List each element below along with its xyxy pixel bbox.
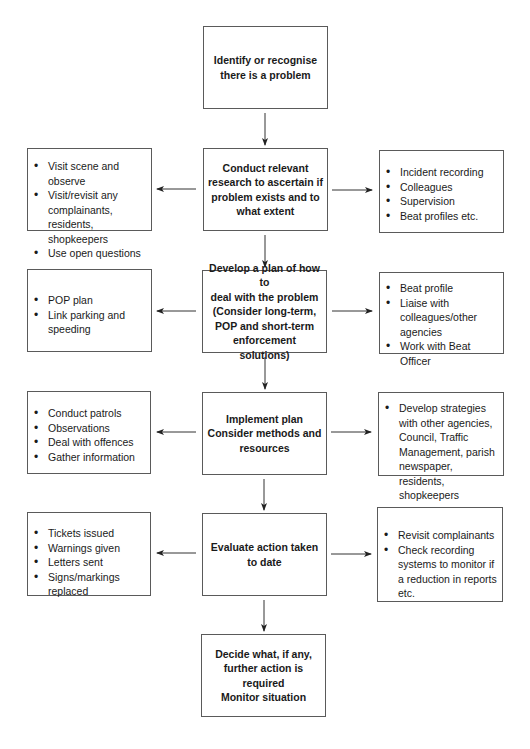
list-item: Visit scene and observe: [34, 159, 147, 188]
step4-center-box-evaluate: Evaluate action taken to date: [202, 513, 327, 596]
list-item: Supervision: [386, 194, 499, 209]
list-item: Beat profiles etc.: [386, 209, 499, 224]
list-item: Signs/markings replaced: [34, 570, 146, 599]
step3-center-box-implement: Implement plan Consider methods and reso…: [202, 392, 327, 475]
end-line: Monitor situation: [206, 690, 321, 705]
step-line: enforcement solutions): [207, 333, 322, 362]
list-item: Incident recording: [386, 165, 499, 180]
step-line: to date: [211, 555, 318, 570]
list-item: Gather information: [34, 450, 146, 465]
step-line: POP and short-term: [207, 319, 322, 334]
list-item: Colleagues: [386, 180, 499, 195]
step1-right-box: Incident recording Colleagues Supervisio…: [379, 150, 504, 233]
list-item: Observations: [34, 421, 146, 436]
step-line: research to ascertain if: [208, 175, 323, 190]
step-line: resources: [208, 441, 322, 456]
step2-left-box: POP plan Link parking and speeding: [27, 269, 152, 352]
step4-left-box: Tickets issued Warnings given Letters se…: [27, 512, 151, 596]
step3-left-box: Conduct patrols Observations Deal with o…: [27, 391, 151, 474]
end-line: Decide what, if any,: [206, 647, 321, 662]
list-item: Use open questions: [34, 246, 147, 261]
step1-center-box-research: Conduct relevant research to ascertain i…: [203, 148, 328, 231]
start-line: there is a problem: [214, 68, 317, 83]
list-item: Warnings given: [34, 541, 146, 556]
end-line: further action is required: [206, 661, 321, 690]
step-line: Consider methods and: [208, 426, 322, 441]
list-item: Beat profile: [386, 281, 499, 296]
start-box-identify-problem: Identify or recognise there is a problem: [203, 26, 328, 109]
step-line: Develop a plan of how to: [207, 261, 322, 290]
step1-left-box: Visit scene and observe Visit/revisit an…: [27, 148, 152, 231]
list-item: Develop strategies with other agencies, …: [385, 401, 499, 503]
end-box-decide-action: Decide what, if any, further action is r…: [201, 634, 326, 717]
step-line: (Consider long-term,: [207, 304, 322, 319]
step-line: what extent: [208, 204, 323, 219]
start-line: Identify or recognise: [214, 53, 317, 68]
list-item: Work with Beat Officer: [386, 339, 499, 368]
step-line: Implement plan: [208, 412, 322, 427]
list-item: Link parking and speeding: [34, 308, 147, 337]
list-item: Check recording systems to monitor if a …: [384, 543, 498, 601]
step-line: problem exists and to: [208, 190, 323, 205]
list-item: Conduct patrols: [34, 406, 146, 421]
step2-right-box: Beat profile Liaise with colleagues/othe…: [379, 272, 504, 354]
step4-right-box: Revisit complainants Check recording sys…: [377, 507, 503, 602]
list-item: Visit/revisit any complainants, resident…: [34, 188, 147, 246]
step-line: deal with the problem: [207, 290, 322, 305]
step2-center-box-plan: Develop a plan of how to deal with the p…: [202, 270, 327, 353]
list-item: Revisit complainants: [384, 528, 498, 543]
list-item: Letters sent: [34, 555, 146, 570]
step-line: Evaluate action taken: [211, 540, 318, 555]
step-line: Conduct relevant: [208, 161, 323, 176]
list-item: Tickets issued: [34, 526, 146, 541]
step3-right-box: Develop strategies with other agencies, …: [378, 392, 504, 476]
list-item: POP plan: [34, 293, 147, 308]
list-item: Deal with offences: [34, 435, 146, 450]
list-item: Liaise with colleagues/other agencies: [386, 296, 499, 340]
